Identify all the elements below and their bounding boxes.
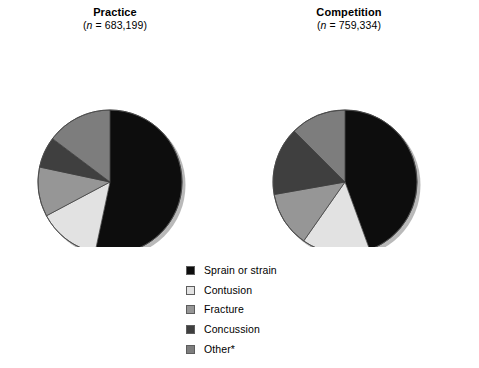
figure-canvas: Practice (n = 683,199) Competition (n = … bbox=[0, 0, 479, 368]
legend-item-contusion[interactable]: Contusion bbox=[186, 281, 356, 301]
legend-label-concussion: Concussion bbox=[204, 324, 260, 335]
competition-sample-size: (n = 759,334) bbox=[234, 19, 464, 32]
legend-swatch-icon-concussion bbox=[186, 325, 195, 334]
competition-n-equals: = bbox=[327, 19, 339, 31]
legend-item-fracture[interactable]: Fracture bbox=[186, 300, 356, 320]
practice-title-block: Practice (n = 683,199) bbox=[0, 0, 230, 32]
practice-n-value: 683,199 bbox=[105, 19, 144, 31]
legend-item-other[interactable]: Other* bbox=[186, 339, 356, 359]
practice-pie-chart bbox=[0, 32, 230, 247]
practice-n-paren-close: ) bbox=[143, 19, 147, 31]
panel-competition: Competition (n = 759,334) bbox=[234, 0, 464, 260]
legend-label-fracture: Fracture bbox=[204, 304, 244, 315]
legend-item-concussion[interactable]: Concussion bbox=[186, 320, 356, 340]
legend-label-other: Other* bbox=[204, 344, 235, 355]
competition-title-block: Competition (n = 759,334) bbox=[234, 0, 464, 32]
competition-n-paren-close: ) bbox=[377, 19, 381, 31]
legend-swatch-icon-other bbox=[186, 345, 195, 354]
competition-n-value: 759,334 bbox=[339, 19, 378, 31]
legend-swatch-icon-sprain-or-strain bbox=[186, 266, 195, 275]
practice-title: Practice bbox=[0, 6, 230, 19]
legend-swatch-icon-contusion bbox=[186, 286, 195, 295]
practice-sample-size: (n = 683,199) bbox=[0, 19, 230, 32]
practice-pie-wrap bbox=[0, 32, 230, 247]
competition-pie-wrap bbox=[234, 32, 464, 247]
legend-swatch-icon-fracture bbox=[186, 305, 195, 314]
panel-practice: Practice (n = 683,199) bbox=[0, 0, 230, 260]
legend-label-contusion: Contusion bbox=[204, 285, 252, 296]
competition-title: Competition bbox=[234, 6, 464, 19]
legend: Sprain or strain Contusion Fracture Conc… bbox=[186, 261, 356, 359]
legend-label-sprain-or-strain: Sprain or strain bbox=[204, 265, 277, 276]
practice-n-equals: = bbox=[93, 19, 105, 31]
legend-item-sprain-or-strain[interactable]: Sprain or strain bbox=[186, 261, 356, 281]
competition-pie-chart bbox=[234, 32, 464, 247]
